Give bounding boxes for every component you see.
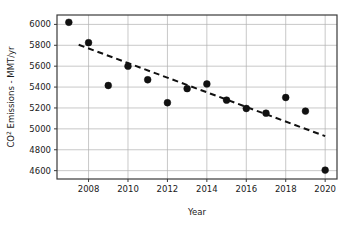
data-point bbox=[223, 97, 230, 104]
x-tick-label: 2010 bbox=[117, 184, 139, 194]
y-tick-label: 5200 bbox=[29, 103, 51, 113]
y-tick-label: 5000 bbox=[29, 124, 51, 134]
y-tick-label: 5800 bbox=[29, 40, 51, 50]
plot-area bbox=[57, 15, 337, 179]
x-tick-label: 2012 bbox=[157, 184, 179, 194]
co2-emissions-scatter-chart: 46004800500052005400560058006000 2008201… bbox=[0, 0, 355, 225]
x-tick-label: 2008 bbox=[78, 184, 100, 194]
x-tick-label: 2014 bbox=[196, 184, 218, 194]
data-point bbox=[144, 76, 151, 83]
y-tick-label: 4600 bbox=[29, 166, 51, 176]
data-point bbox=[322, 167, 329, 174]
data-point bbox=[263, 110, 270, 117]
x-tick-label: 2018 bbox=[275, 184, 297, 194]
x-axis-title: Year bbox=[187, 207, 207, 217]
data-point bbox=[243, 105, 250, 112]
y-tick-label: 6000 bbox=[29, 19, 51, 29]
y-tick-label: 4800 bbox=[29, 145, 51, 155]
data-point bbox=[203, 81, 210, 88]
chart-figure: 46004800500052005400560058006000 2008201… bbox=[0, 0, 355, 225]
x-tick-label: 2016 bbox=[235, 184, 257, 194]
data-point bbox=[164, 99, 171, 106]
data-point bbox=[282, 94, 289, 101]
x-tick-label: 2020 bbox=[314, 184, 336, 194]
data-point bbox=[65, 19, 72, 26]
y-tick-label: 5400 bbox=[29, 82, 51, 92]
data-point bbox=[184, 85, 191, 92]
data-point bbox=[105, 82, 112, 89]
data-point bbox=[125, 63, 132, 70]
y-tick-label: 5600 bbox=[29, 61, 51, 71]
data-point bbox=[85, 39, 92, 46]
data-point bbox=[302, 108, 309, 115]
